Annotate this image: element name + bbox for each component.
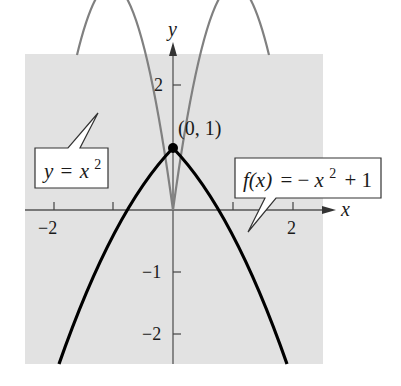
tick-label-x-neg2: −2 (38, 218, 57, 238)
tick-label-y-neg2: −2 (142, 324, 161, 344)
tick-label-y-2: 2 (154, 75, 163, 95)
x-axis-arrow-icon (322, 206, 336, 214)
x-axis-label: x (340, 198, 350, 220)
chart: y x −2 2 2 −1 −2 (0, 1) y = x 2 f(x) = −… (0, 0, 401, 386)
y-axis-arrow-icon (169, 42, 177, 56)
vertex-label: (0, 1) (178, 117, 221, 140)
tick-label-y-neg1: −1 (142, 262, 161, 282)
callout-parabola-text: y = x 2 (42, 157, 101, 183)
y-axis-label: y (166, 18, 177, 41)
vertex-point (168, 143, 178, 153)
tick-label-x-2: 2 (287, 218, 296, 238)
